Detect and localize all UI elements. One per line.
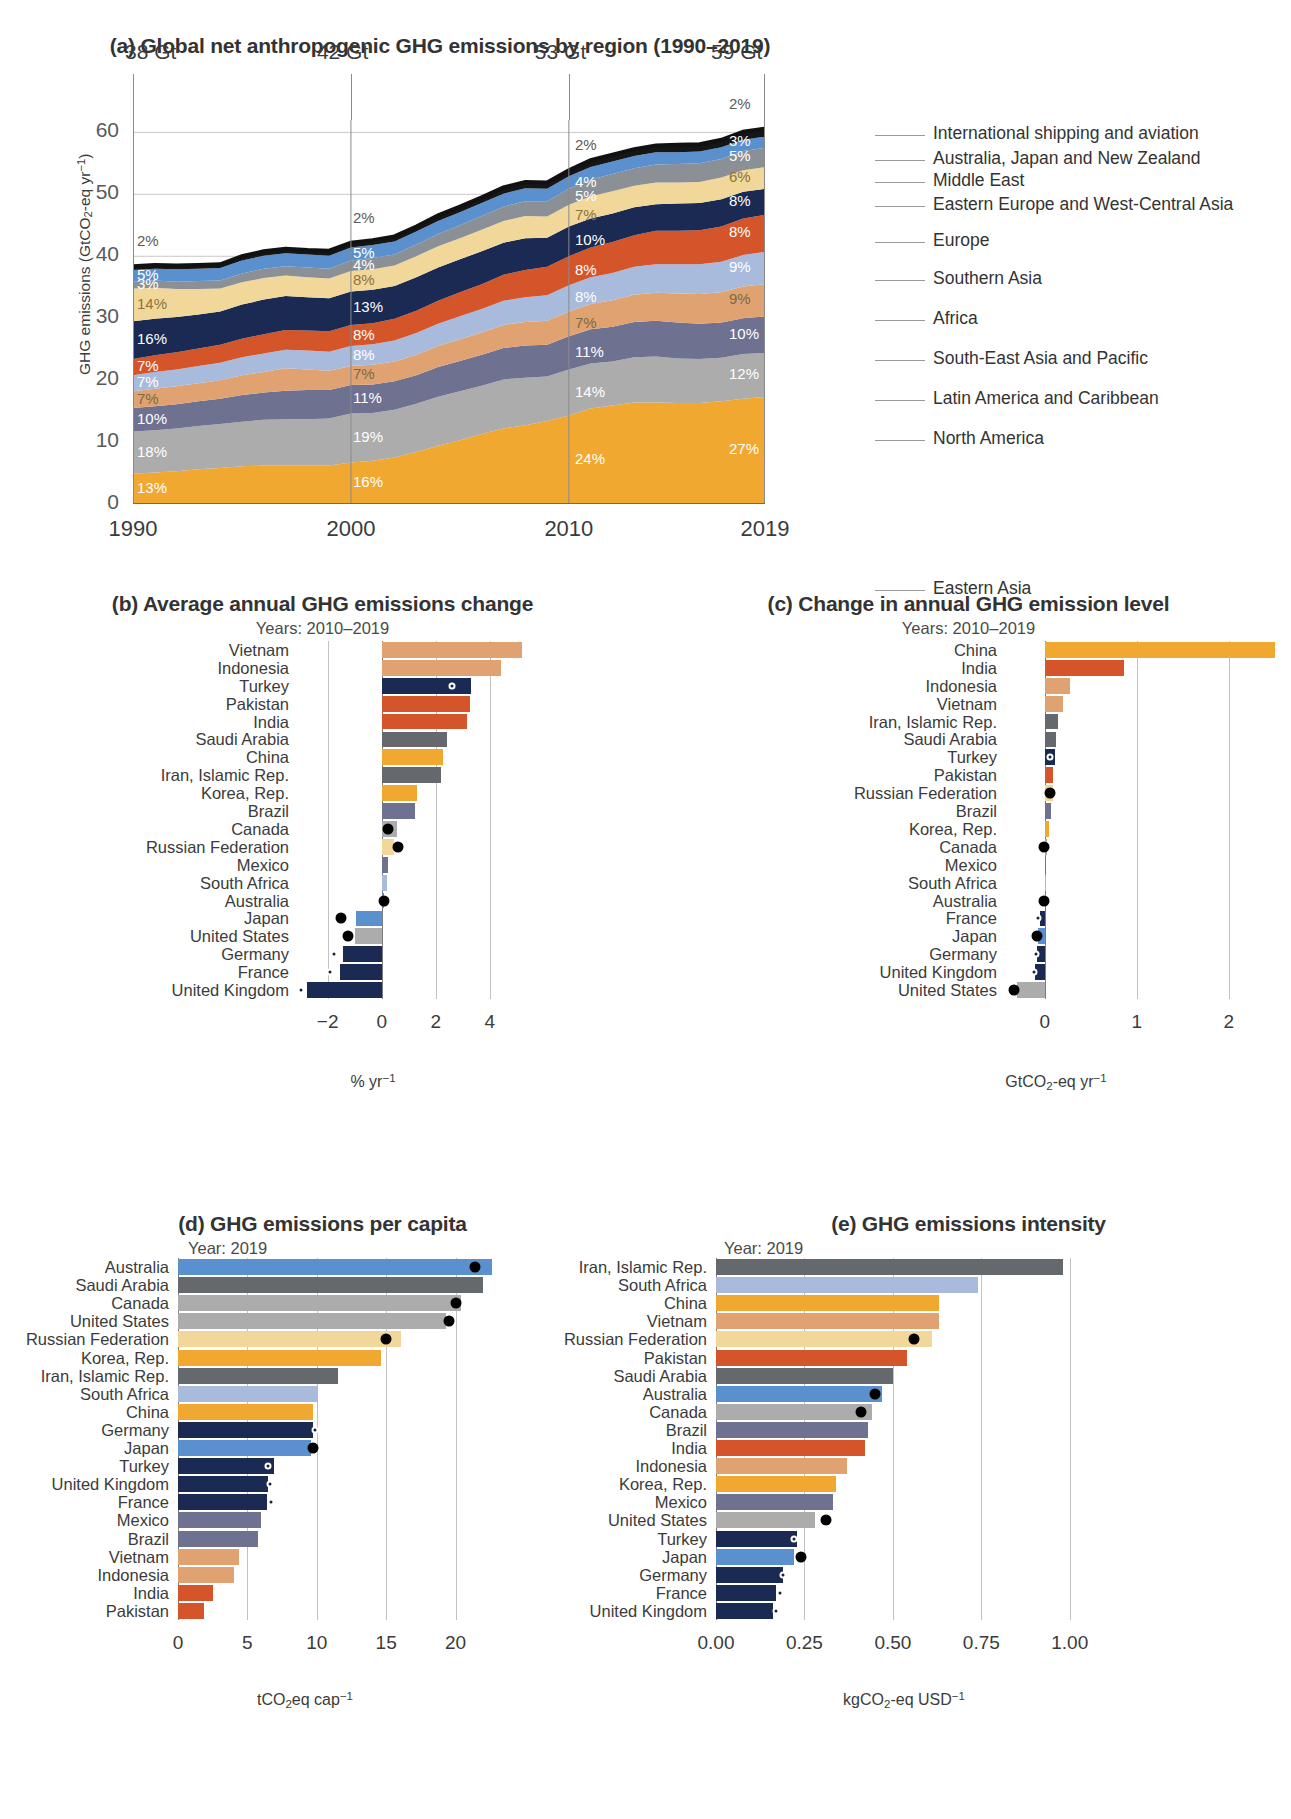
bar-category-label: China: [954, 642, 1006, 659]
bar-row: China: [178, 1403, 518, 1421]
bar-row: France: [716, 1584, 1091, 1602]
bar-category-label: India: [253, 714, 298, 731]
panel-e-title: (e) GHG emissions intensity: [646, 1212, 1291, 1236]
bar-category-label: Mexico: [655, 1494, 716, 1511]
panel-e-x-axis-label: kgCO2-eq USD−1: [684, 1690, 1124, 1710]
bar: [716, 1313, 939, 1329]
bar-category-label: China: [664, 1295, 716, 1312]
bar-row: Canada: [178, 1294, 518, 1312]
bar-category-label: United Kingdom: [590, 1603, 716, 1620]
panel-d-title: (d) GHG emissions per capita: [0, 1212, 645, 1236]
panel-a-legend-item: South-East Asia and Pacific: [933, 348, 1148, 369]
bar-row: Germany: [716, 1566, 1091, 1584]
panel-a-legend-item: Middle East: [933, 170, 1024, 191]
bar: [716, 1440, 865, 1456]
bar: [1045, 714, 1058, 730]
bar-category-label: Vietnam: [229, 642, 298, 659]
bar-category-label: United Kingdom: [880, 964, 1006, 981]
panel-a-plot-area: GHG emissions (GtCO2-eq yr−1) 38 Gt42 Gt…: [133, 120, 765, 504]
bar-row: Iran, Islamic Rep.: [298, 766, 533, 784]
panel-a-share-label: 9%: [729, 258, 751, 275]
x-axis-tick: 20: [421, 1632, 491, 1654]
bar: [1045, 660, 1124, 676]
co2-only-marker: [1031, 931, 1042, 942]
bar-row: South Africa: [298, 874, 533, 892]
co2-only-marker: [331, 951, 338, 958]
bar-row: South Africa: [1006, 874, 1286, 892]
bar-row: Indonesia: [716, 1457, 1091, 1475]
panel-a-y-tick: 40: [73, 242, 119, 266]
bar: [178, 1531, 258, 1547]
x-axis-tick: 0.00: [681, 1632, 751, 1654]
panel-b-subtitle: Years: 2010–2019: [0, 619, 645, 638]
bar-row: Pakistan: [1006, 766, 1286, 784]
bar-row: France: [1006, 910, 1286, 928]
bar-category-label: Vietnam: [109, 1549, 178, 1566]
panel-a-x-tick: 2000: [301, 516, 401, 542]
panel-b-avg-annual-change: (b) Average annual GHG emissions change …: [0, 592, 645, 1192]
panel-a-stacked-area: (a) Global net anthropogenic GHG emissio…: [0, 0, 1291, 560]
bar: [178, 1549, 239, 1565]
co2-only-marker: [469, 1262, 480, 1273]
panel-a-share-label: 7%: [353, 365, 375, 382]
bar: [178, 1603, 204, 1619]
bar-category-label: Canada: [111, 1295, 178, 1312]
bar: [1045, 642, 1275, 658]
panel-a-share-label: 7%: [575, 314, 597, 331]
panel-a-x-tick: 2010: [519, 516, 619, 542]
panel-a-share-label: 4%: [353, 256, 375, 273]
bar-row: United States: [178, 1312, 518, 1330]
bar-category-label: France: [656, 1585, 716, 1602]
panel-a-share-label: 8%: [729, 192, 751, 209]
co2-only-marker: [820, 1515, 831, 1526]
co2-only-marker: [342, 931, 353, 942]
bar-row: Iran, Islamic Rep.: [716, 1258, 1091, 1276]
bar: [382, 749, 443, 765]
bar: [1017, 982, 1045, 998]
bar-row: South Africa: [716, 1276, 1091, 1294]
co2-only-marker: [1032, 951, 1039, 958]
panel-a-share-label: 7%: [137, 373, 159, 390]
bar: [716, 1422, 868, 1438]
panel-a-share-label: 8%: [729, 223, 751, 240]
bar-category-label: Mexico: [237, 857, 298, 874]
co2-only-marker: [773, 1607, 780, 1614]
bar: [1045, 857, 1046, 873]
x-axis-tick: 0: [1010, 1011, 1080, 1033]
co2-only-marker: [909, 1334, 920, 1345]
bar-category-label: Brazil: [248, 803, 298, 820]
bar: [382, 803, 416, 819]
panel-a-y-tick: 0: [73, 490, 119, 514]
bar: [382, 732, 447, 748]
bar-row: France: [178, 1493, 518, 1511]
panel-a-share-label: 2%: [137, 232, 159, 249]
bar-category-label: Germany: [221, 946, 298, 963]
bar-row: Germany: [298, 945, 533, 963]
bar-category-label: India: [671, 1440, 716, 1457]
panel-a-total-stem: [569, 74, 570, 120]
panel-a-share-label: 2%: [729, 95, 751, 112]
bar-category-label: Japan: [244, 910, 298, 927]
bar-row: Indonesia: [298, 659, 533, 677]
bar: [178, 1458, 274, 1474]
bar: [1045, 803, 1051, 819]
bar-category-label: South Africa: [908, 875, 1006, 892]
bar: [1045, 875, 1046, 891]
bar-category-label: Vietnam: [647, 1313, 716, 1330]
panel-d-x-axis-label: tCO2eq cap−1: [110, 1690, 500, 1710]
panel-a-share-label: 12%: [729, 365, 759, 382]
panel-a-share-label: 10%: [729, 325, 759, 342]
x-axis-tick: 0.75: [946, 1632, 1016, 1654]
bar-row: United States: [298, 927, 533, 945]
bar: [178, 1386, 318, 1402]
panel-a-share-label: 2%: [575, 136, 597, 153]
bar-row: Australia: [1006, 892, 1286, 910]
co2-only-marker: [1035, 915, 1042, 922]
bar: [716, 1531, 797, 1547]
co2-only-marker: [780, 1571, 787, 1578]
bar-row: Pakistan: [178, 1602, 518, 1620]
panel-a-share-label: 10%: [575, 231, 605, 248]
panel-a-legend-leader: [875, 182, 925, 183]
panel-e-subtitle: Year: 2019: [724, 1239, 1291, 1258]
bar-category-label: Korea, Rep.: [81, 1350, 178, 1367]
